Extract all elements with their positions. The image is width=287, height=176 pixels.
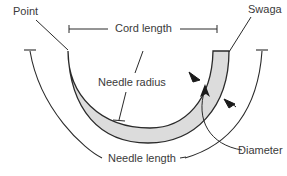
needle-body <box>68 51 229 143</box>
label-needle-length: Needle length <box>108 153 176 164</box>
point-leader <box>36 20 68 50</box>
needle-radius-leader-bottom <box>119 92 126 120</box>
label-diameter: Diameter <box>238 145 283 156</box>
needle-radius-tick <box>113 120 125 121</box>
label-cord-length: Cord length <box>115 23 172 34</box>
swage-leader <box>229 17 251 52</box>
diameter-arrow-outer-icon <box>224 99 236 108</box>
needle-radius-leader-top <box>135 51 143 73</box>
label-needle-radius: Needle radius <box>98 77 166 88</box>
diameter-arrow-inner-icon <box>189 72 200 82</box>
needle-diagram: Point Cord length Swaga Needle radius Di… <box>0 0 287 176</box>
label-point: Point <box>13 6 38 17</box>
label-swage: Swaga <box>248 4 282 15</box>
needle-length-arc <box>30 51 102 158</box>
